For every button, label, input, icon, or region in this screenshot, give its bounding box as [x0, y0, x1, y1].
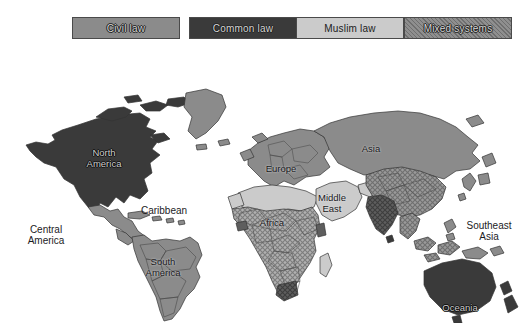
- region-south-america: [132, 235, 202, 321]
- legend-item-common-law[interactable]: Common law: [189, 17, 297, 39]
- region-sri-lanka: [386, 235, 394, 243]
- region-madagascar: [320, 253, 332, 277]
- legend-label-common-law: Common law: [213, 23, 273, 34]
- legend-item-mixed-systems[interactable]: Mixed systems: [404, 17, 512, 39]
- legend-label-civil-law: Civil law: [107, 23, 145, 34]
- legend-item-civil-law[interactable]: Civil law: [72, 17, 180, 39]
- region-sub-saharan-africa: [232, 207, 320, 297]
- legend-label-muslim-law: Muslim law: [324, 23, 375, 34]
- region-europe: [240, 129, 330, 187]
- map-legend: Civil lawCommon lawMuslim lawMixed syste…: [0, 0, 524, 45]
- region-indonesia-islands: [462, 246, 504, 259]
- region-arctic-islands: [196, 139, 230, 150]
- legend-item-muslim-law[interactable]: Muslim law: [296, 17, 404, 39]
- region-japan: [458, 173, 476, 201]
- world-map: North AmericaCaribbeanCentral AmericaSou…: [0, 45, 524, 323]
- legend-label-mixed-systems: Mixed systems: [424, 23, 493, 34]
- region-india: [366, 195, 398, 235]
- region-greenland: [184, 89, 226, 139]
- region-caribbean: [128, 211, 185, 225]
- world-map-svg: [0, 45, 524, 323]
- region-philippines: [444, 219, 456, 241]
- region-north-america: [26, 95, 190, 213]
- region-oceania: [424, 259, 496, 323]
- figure-canvas: Civil lawCommon lawMuslim lawMixed syste…: [0, 0, 524, 323]
- region-new-zealand: [500, 281, 518, 313]
